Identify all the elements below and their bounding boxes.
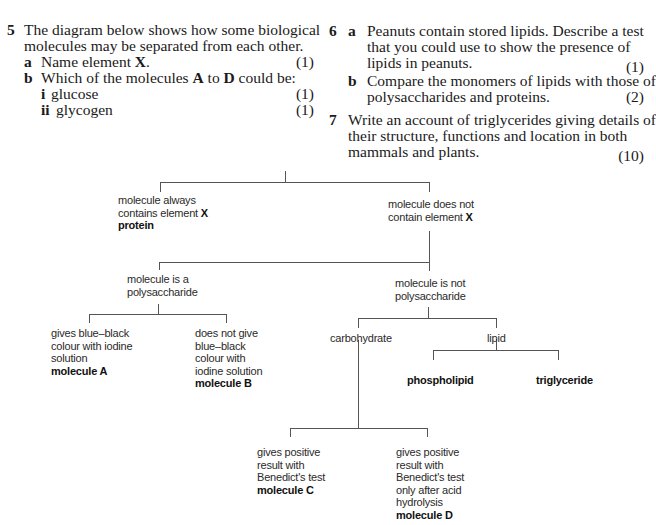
node-molecule-b-line4: iodine solution — [195, 365, 262, 378]
question-5bii-marks: (1) — [290, 102, 314, 118]
question-5a-marks: (1) — [290, 54, 314, 70]
polysaccharide-right-leg — [226, 314, 227, 323]
node-no-x: molecule does not contain element X — [388, 198, 474, 223]
level1-left-leg — [160, 182, 161, 192]
question-5b-text: Which of the molecules A to D could be: — [41, 70, 296, 86]
node-no-x-element: X — [466, 211, 473, 223]
question-5a-label: a — [24, 54, 32, 70]
not-polysaccharide-bar-line — [358, 318, 497, 319]
node-triglyceride: triglyceride — [536, 374, 593, 387]
q5b-text-post: could be: — [235, 69, 296, 86]
question-7-line1: Write an account of triglycerides giving… — [348, 112, 656, 128]
q5b-text-pre: Which of the molecules — [41, 69, 193, 86]
node-molecule-a-line1: gives blue–black — [51, 327, 132, 340]
node-molecule-c-result: molecule C — [257, 484, 325, 497]
question-6b-line2: polysaccharides and proteins. — [367, 89, 550, 105]
q5a-element-x: X — [135, 53, 146, 70]
node-contains-x-line2-text: contains element — [118, 207, 201, 219]
node-polysaccharide-line2: polysaccharide — [127, 286, 198, 299]
node-molecule-a-result: molecule A — [51, 365, 132, 378]
node-not-polysaccharide-line1: molecule is not — [395, 277, 466, 290]
node-molecule-a-line3: solution — [51, 352, 132, 365]
question-6b-label: b — [348, 73, 357, 89]
node-contains-x: molecule always contains element X prote… — [118, 194, 208, 232]
question-6a-line3: lipids in peanuts. — [367, 55, 472, 71]
node-molecule-a: gives blue–black colour with iodine solu… — [51, 327, 132, 377]
level1-right-leg — [429, 182, 430, 192]
node-molecule-d-line5: hydrolysis — [396, 496, 464, 509]
polysaccharide-left-leg — [89, 314, 90, 323]
node-molecule-d-line1: gives positive — [396, 446, 464, 459]
question-6b-line1: Compare the monomers of lipids with thos… — [367, 73, 656, 89]
node-not-polysaccharide: molecule is not polysaccharide — [395, 277, 466, 302]
node-no-x-line2: contain element X — [388, 211, 474, 224]
lipid-left-leg — [433, 350, 434, 360]
q5b-bold-a: A — [193, 69, 204, 86]
carbohydrate-right-leg — [427, 428, 428, 437]
node-lipid: lipid — [487, 332, 506, 345]
node-molecule-c-line2: result with — [257, 459, 325, 472]
question-6a-label: a — [348, 23, 356, 39]
node-molecule-d-line2: result with — [396, 459, 464, 472]
question-5bi-label: i — [41, 86, 45, 102]
question-6a-line2: that you could use to show the presence … — [367, 39, 630, 55]
node-polysaccharide: molecule is a polysaccharide — [127, 273, 198, 298]
node-molecule-c-line1: gives positive — [257, 446, 325, 459]
carbohydrate-left-leg — [290, 428, 291, 437]
question-6-number: 6 — [329, 23, 337, 39]
node-molecule-b: does not give blue–black colour with iod… — [195, 327, 262, 390]
node-protein-result: protein — [118, 219, 208, 232]
question-5-intro-line1: The diagram below shows how some biologi… — [24, 22, 320, 38]
lipid-right-leg — [558, 350, 559, 360]
q5a-text-pre: Name element — [41, 53, 135, 70]
question-7-line2: their structure, functions and location … — [348, 128, 627, 144]
question-5-intro-line2: molecules may be separated from each oth… — [24, 38, 303, 54]
no-x-stem-line — [429, 231, 430, 263]
node-molecule-b-line2: blue–black — [195, 340, 262, 353]
node-carbohydrate: carbohydrate — [330, 332, 392, 345]
question-6a-line1: Peanuts contain stored lipids. Describe … — [367, 23, 644, 39]
question-6b-marks: (2) — [620, 89, 644, 105]
node-molecule-b-line1: does not give — [195, 327, 262, 340]
node-molecule-d-line4: only after acid — [396, 484, 464, 497]
node-molecule-c: gives positive result with Benedict's te… — [257, 446, 325, 496]
node-contains-x-line2: contains element X — [118, 207, 208, 220]
node-molecule-c-line3: Benedict's test — [257, 471, 325, 484]
question-7-line3: mammals and plants. — [348, 144, 479, 160]
node-no-x-line2-text: contain element — [388, 211, 466, 223]
question-5b-label: b — [24, 70, 33, 86]
q5a-text-post: . — [146, 53, 150, 70]
level1-bar-line — [160, 182, 430, 183]
q5b-text-mid: to — [204, 69, 224, 86]
node-polysaccharide-line1: molecule is a — [127, 273, 198, 286]
carbohydrate-stem-line — [358, 340, 359, 429]
node-molecule-d: gives positive result with Benedict's te… — [396, 446, 464, 521]
question-5bii-text: glycogen — [56, 102, 113, 118]
node-contains-x-element: X — [201, 207, 208, 219]
level2-bar-line — [159, 262, 430, 263]
question-5a-text: Name element X. — [41, 54, 150, 70]
node-molecule-b-line3: colour with — [195, 352, 262, 365]
level2-right-leg — [429, 262, 430, 271]
node-phospholipid: phospholipid — [407, 374, 474, 387]
node-molecule-b-result: molecule B — [195, 377, 262, 390]
not-polysaccharide-right-leg — [496, 318, 497, 328]
question-7-marks: (10) — [610, 148, 644, 164]
node-molecule-d-line3: Benedict's test — [396, 471, 464, 484]
node-not-polysaccharide-line2: polysaccharide — [395, 290, 466, 303]
question-5-number: 5 — [7, 22, 15, 38]
question-7-number: 7 — [329, 112, 337, 128]
node-molecule-a-line2: colour with iodine — [51, 340, 132, 353]
question-5bi-text: glucose — [51, 86, 98, 102]
polysaccharide-bar-line — [89, 314, 227, 315]
not-polysaccharide-left-leg — [358, 318, 359, 328]
node-molecule-d-result: molecule D — [396, 509, 464, 522]
level2-left-leg — [159, 262, 160, 270]
carbohydrate-bar-line — [290, 428, 428, 429]
lipid-bar-line — [433, 350, 559, 351]
question-5bii-label: ii — [41, 102, 50, 118]
q5b-bold-d: D — [224, 69, 235, 86]
node-contains-x-line1: molecule always — [118, 194, 208, 207]
question-5bi-marks: (1) — [290, 86, 314, 102]
node-no-x-line1: molecule does not — [388, 198, 474, 211]
